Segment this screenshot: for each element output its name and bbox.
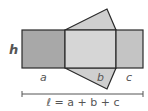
top-triangle-face [65,9,116,30]
prism-net-diagram: h a b c ℓ = a + b + c [0,0,148,111]
side-a-label: a [40,71,47,84]
length-formula: ℓ = a + b + c [46,96,120,109]
bottom-triangle-face [65,68,116,89]
height-label: h [9,42,18,57]
side-b-label: b [97,71,104,84]
face-c [116,30,143,68]
face-b [65,30,116,68]
side-c-label: c [126,71,132,84]
face-a [22,30,65,68]
